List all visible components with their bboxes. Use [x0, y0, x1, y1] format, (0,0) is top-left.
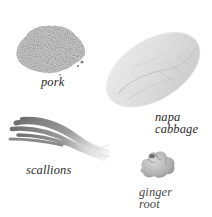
pork-label-line: pork — [41, 76, 64, 88]
ingredients-illustration: pork — [0, 0, 212, 217]
napa-cabbage-illustration — [96, 26, 208, 110]
ginger-root-label: ginger root — [139, 186, 172, 210]
scallions-label-line: scallions — [26, 164, 71, 176]
napa-cabbage-label-line-2: cabbage — [155, 123, 198, 135]
ground-pork-illustration — [12, 22, 88, 76]
scallions-label: scallions — [26, 164, 71, 176]
scallions-illustration — [6, 115, 110, 161]
pork-label: pork — [41, 76, 64, 88]
napa-cabbage-label: napa cabbage — [155, 111, 198, 135]
ginger-root-illustration — [136, 148, 178, 180]
ginger-root-label-line-2: root — [139, 198, 172, 210]
